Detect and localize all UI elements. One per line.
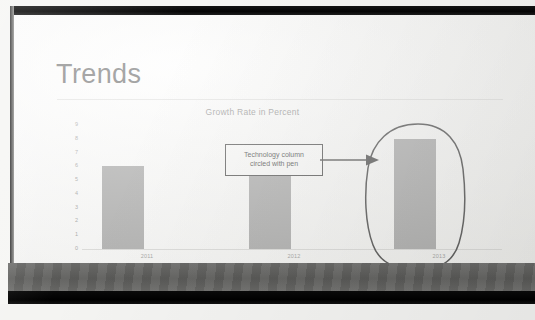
- bar-2011: [102, 166, 144, 249]
- photo-floor: [0, 304, 535, 320]
- callout-textbox: Technology column circled with pen: [225, 144, 323, 176]
- slide-photo: Trends Growth Rate in Percent 0123456789…: [0, 0, 535, 320]
- y-axis-tick-label: 5: [75, 177, 78, 183]
- y-axis-tick-label: 9: [75, 122, 78, 128]
- presentation-slide: Trends Growth Rate in Percent 0123456789…: [14, 15, 535, 263]
- y-axis-tick-label: 2: [75, 219, 78, 225]
- y-axis: 0123456789: [64, 125, 80, 250]
- chart-title: Growth Rate in Percent: [14, 107, 535, 117]
- y-axis-tick-label: 3: [75, 205, 78, 211]
- x-axis-label-2011: 2011: [141, 253, 154, 259]
- y-axis-tick-label: 4: [75, 191, 78, 197]
- y-axis-tick-label: 7: [75, 150, 78, 156]
- callout-text: Technology column circled with pen: [244, 151, 304, 169]
- lower-gray-band: [8, 263, 535, 291]
- y-axis-tick-label: 1: [75, 232, 78, 238]
- callout-line-1: Technology column: [244, 151, 304, 158]
- x-axis-label-2012: 2012: [287, 253, 300, 259]
- title-underline-rule: [57, 99, 503, 100]
- y-axis-tick-label: 0: [75, 246, 78, 252]
- callout-line-2: circled with pen: [250, 160, 298, 167]
- y-axis-tick-label: 8: [75, 136, 78, 142]
- pen-ellipse-annotation-icon: [356, 121, 480, 273]
- lower-black-band: [8, 291, 535, 304]
- screen-bezel-top: [10, 6, 535, 15]
- slide-title: Trends: [56, 61, 141, 88]
- chart-title-text: Growth Rate in Percent: [206, 107, 300, 117]
- bar-2012: [249, 164, 291, 249]
- y-axis-tick-label: 6: [75, 164, 78, 170]
